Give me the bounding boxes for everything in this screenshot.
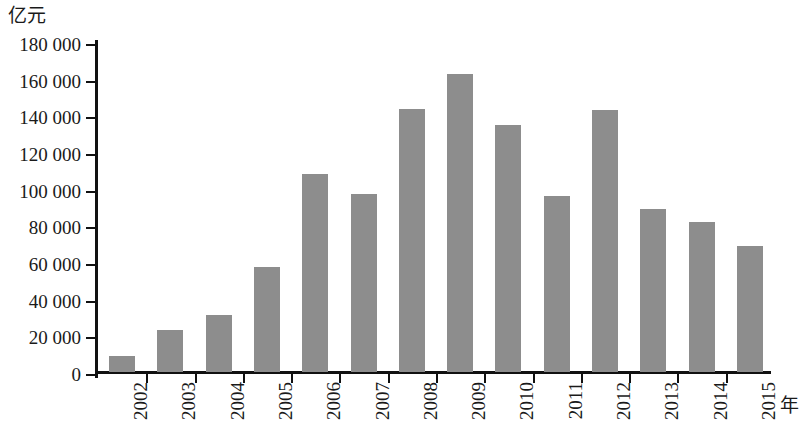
x-axis-tick-label: 2006 xyxy=(324,382,343,420)
bar xyxy=(157,330,183,372)
bar xyxy=(109,356,135,373)
y-axis-tick-label: 20 000 xyxy=(29,328,81,347)
x-axis-tick-label: 2010 xyxy=(517,382,536,420)
bar xyxy=(399,109,425,372)
x-axis-tick-label: 2009 xyxy=(469,382,488,420)
x-axis-tick-label: 2014 xyxy=(711,382,730,420)
bar xyxy=(544,196,570,372)
bar xyxy=(495,125,521,372)
x-axis-tick-label: 2007 xyxy=(373,382,392,420)
y-axis-tick-label: 0 xyxy=(72,365,82,384)
y-axis-tick-label: 140 000 xyxy=(19,108,81,127)
y-axis-tick-mark xyxy=(86,264,96,266)
y-axis-tick-mark xyxy=(86,227,96,229)
x-axis-unit-label: 年 xyxy=(780,396,799,415)
x-axis-tick-label: 2008 xyxy=(421,382,440,420)
y-axis-tick-mark xyxy=(86,81,96,83)
x-axis-tick-label: 2013 xyxy=(662,382,681,420)
y-axis-tick-label: 60 000 xyxy=(29,255,81,274)
y-axis-tick-label: 100 000 xyxy=(19,181,81,200)
x-axis-tick-label: 2003 xyxy=(179,382,198,420)
y-axis-tick-mark xyxy=(86,117,96,119)
bar xyxy=(592,110,618,372)
x-axis-tick-label: 2011 xyxy=(566,382,585,419)
bar xyxy=(689,222,715,372)
y-axis-unit-label: 亿元 xyxy=(8,6,46,25)
y-axis-tick-label: 80 000 xyxy=(29,218,81,237)
x-axis-tick-label: 2002 xyxy=(131,382,150,420)
y-axis-tick-label: 180 000 xyxy=(19,35,81,54)
plot-area: 020 00040 00060 00080 000100 000120 0001… xyxy=(95,44,771,374)
bar xyxy=(254,267,280,372)
y-axis-line xyxy=(95,40,98,378)
y-axis-tick-mark xyxy=(86,154,96,156)
bar-chart: 亿元 020 00040 00060 00080 000100 000120 0… xyxy=(0,0,808,427)
bar xyxy=(447,74,473,372)
bar xyxy=(351,194,377,372)
x-axis-tick-label: 2015 xyxy=(759,382,778,420)
bar xyxy=(206,315,232,372)
y-axis-tick-mark xyxy=(86,301,96,303)
bar xyxy=(737,246,763,373)
x-axis-tick-label: 2004 xyxy=(228,382,247,420)
y-axis-tick-mark xyxy=(86,374,96,376)
bar xyxy=(640,209,666,372)
y-axis-tick-mark xyxy=(86,337,96,339)
bar xyxy=(302,174,328,372)
y-axis-tick-label: 120 000 xyxy=(19,145,81,164)
x-axis-tick-label: 2012 xyxy=(614,382,633,420)
y-axis-tick-label: 40 000 xyxy=(29,291,81,310)
y-axis-tick-mark xyxy=(86,191,96,193)
y-axis-tick-mark xyxy=(86,44,96,46)
y-axis-tick-label: 160 000 xyxy=(19,71,81,90)
x-axis-tick-label: 2005 xyxy=(276,382,295,420)
